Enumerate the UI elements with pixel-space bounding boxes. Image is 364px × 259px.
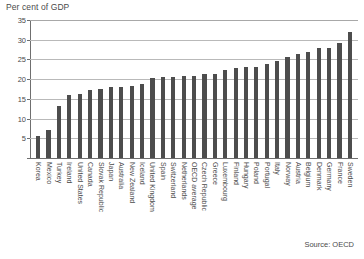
bar-slot <box>54 20 64 158</box>
bar-slot <box>127 20 137 158</box>
bar-slot <box>147 20 157 158</box>
bar-slot <box>324 20 334 158</box>
bar-slot <box>251 20 261 158</box>
x-label-slot: Austria <box>293 160 303 238</box>
x-tick-label: Slovak Republic <box>97 162 104 212</box>
x-label-slot: Germany <box>324 160 334 238</box>
x-label-slot: Switzerland <box>168 160 178 238</box>
bar <box>265 64 269 158</box>
bar <box>348 32 352 158</box>
bar <box>202 74 206 158</box>
x-label-slot: Hungary <box>241 160 251 238</box>
x-label-slot: Finland <box>230 160 240 238</box>
bar-slot <box>262 20 272 158</box>
bar <box>192 76 196 158</box>
bar <box>182 76 186 158</box>
x-label-slot: Luxembourg <box>220 160 230 238</box>
x-tick-label: Korea <box>35 162 42 181</box>
bar-slot <box>64 20 74 158</box>
x-label-slot: Belgium <box>303 160 313 238</box>
x-label-slot: United Kingdom <box>147 160 157 238</box>
x-label-slot: Mexico <box>43 160 53 238</box>
x-label-slot: Slovak Republic <box>95 160 105 238</box>
y-tick-label: 35 <box>18 16 26 25</box>
y-tick-label: 20 <box>18 75 26 84</box>
x-tick-label: OECD average <box>191 162 198 209</box>
x-label-slot: Netherlands <box>178 160 188 238</box>
bar-slot <box>334 20 344 158</box>
source-note: Source: OECD <box>304 240 354 249</box>
y-tick-label: 10 <box>18 114 26 123</box>
bar-slot <box>137 20 147 158</box>
bar <box>317 48 321 158</box>
bar <box>78 94 82 158</box>
bar-slot <box>210 20 220 158</box>
y-tick-label: 30 <box>18 35 26 44</box>
bar <box>223 70 227 158</box>
bar <box>327 48 331 158</box>
x-label-slot: Czech Republic <box>199 160 209 238</box>
bar <box>275 61 279 158</box>
bar-slot <box>303 20 313 158</box>
x-label-slot: Italy <box>272 160 282 238</box>
bar <box>46 130 50 158</box>
x-label-slot: France <box>334 160 344 238</box>
x-tick-label: Ireland <box>66 162 73 183</box>
x-tick-label: United Kingdom <box>149 162 156 212</box>
x-axis-labels: KoreaMexicoTurkeyIrelandUnited StatesCan… <box>30 160 358 238</box>
bar <box>119 87 123 158</box>
x-label-slot: United States <box>75 160 85 238</box>
x-tick-label: Belgium <box>305 162 312 187</box>
bar-slot <box>272 20 282 158</box>
bar-slot <box>168 20 178 158</box>
y-tick-mark <box>27 158 30 159</box>
x-tick-label: Germany <box>326 162 333 191</box>
bar-slot <box>178 20 188 158</box>
x-tick-label: Spain <box>159 162 166 180</box>
x-tick-label: France <box>336 162 343 184</box>
bar <box>337 43 341 158</box>
x-tick-label: Italy <box>274 162 281 175</box>
x-tick-label: New Zealand <box>128 162 135 203</box>
bar-slot <box>345 20 355 158</box>
x-tick-label: Finland <box>232 162 239 185</box>
x-tick-label: Netherlands <box>180 162 187 200</box>
bar <box>109 87 113 158</box>
x-tick-label: Turkey <box>55 162 62 183</box>
bar-slot <box>282 20 292 158</box>
x-label-slot: Ireland <box>64 160 74 238</box>
bar-slot <box>43 20 53 158</box>
bar-slot <box>241 20 251 158</box>
x-tick-label: Sweden <box>346 162 353 187</box>
bar-slot <box>293 20 303 158</box>
x-tick-label: Hungary <box>243 162 250 188</box>
x-tick-label: Norway <box>284 162 291 186</box>
y-tick-label: 5 <box>22 134 26 143</box>
x-label-slot: Spain <box>158 160 168 238</box>
bar-series <box>30 20 358 158</box>
x-tick-label: United States <box>76 162 83 204</box>
bar-slot <box>116 20 126 158</box>
bar <box>140 84 144 158</box>
x-tick-label: Canada <box>87 162 94 187</box>
bar <box>234 68 238 158</box>
x-label-slot: Sweden <box>345 160 355 238</box>
x-tick-label: Denmark <box>315 162 322 190</box>
bar <box>171 77 175 158</box>
x-tick-label: Poland <box>253 162 260 184</box>
x-tick-label: Portugal <box>263 162 270 188</box>
bar <box>254 67 258 158</box>
bar <box>285 57 289 158</box>
x-label-slot: OECD average <box>189 160 199 238</box>
bar-slot <box>85 20 95 158</box>
bar-slot <box>314 20 324 158</box>
x-label-slot: Norway <box>282 160 292 238</box>
bar-slot <box>220 20 230 158</box>
x-tick-label: Mexico <box>45 162 52 184</box>
x-label-slot: Turkey <box>54 160 64 238</box>
x-tick-label: Austria <box>294 162 301 184</box>
bar-slot <box>199 20 209 158</box>
x-label-slot: Portugal <box>262 160 272 238</box>
x-label-slot: Australia <box>116 160 126 238</box>
x-tick-label: Greece <box>211 162 218 185</box>
